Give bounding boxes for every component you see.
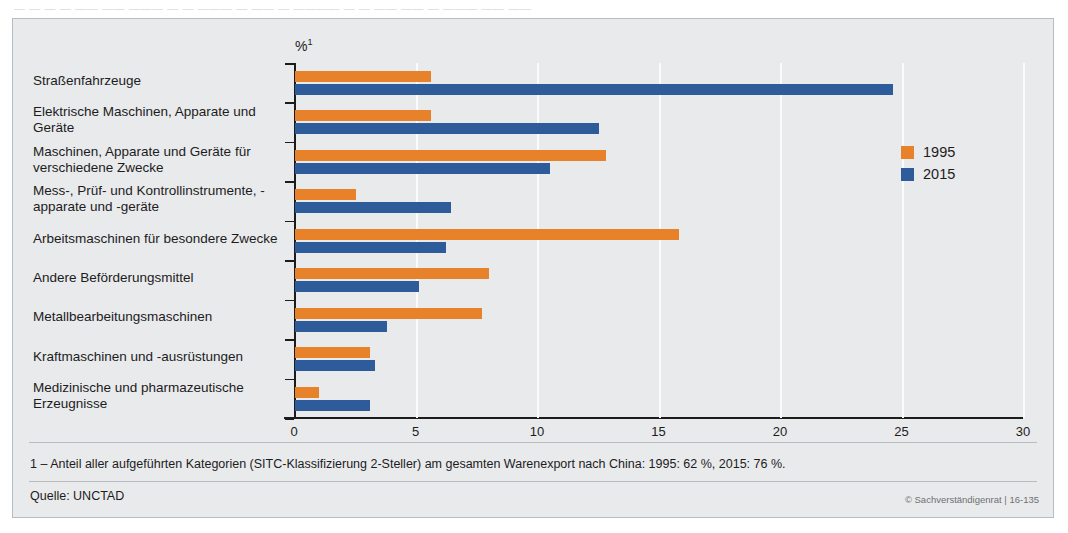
page-bleed-through-text: — — — — —— —— ——— — — ——— — —— — ———— — … (14, 2, 1068, 14)
x-gridline (659, 63, 661, 418)
figure-page: — — — — —— —— ——— — — ——— — —— — ———— — … (0, 0, 1068, 533)
x-tick-label: 30 (1016, 424, 1030, 439)
x-axis-line (284, 417, 1023, 419)
legend-swatch-icon (901, 146, 914, 159)
chart-legend: 19952015 (901, 141, 955, 185)
legend-label: 2015 (923, 166, 955, 182)
category-tick (285, 379, 294, 381)
category-tick (285, 300, 294, 302)
x-tick-label: 25 (894, 424, 908, 439)
x-axis-unit-text: % (295, 38, 307, 54)
bar-2015-3 (295, 163, 550, 174)
category-tick (285, 142, 294, 144)
bar-1995-1 (295, 71, 431, 82)
legend-swatch-icon (901, 168, 914, 181)
bar-2015-6 (295, 281, 419, 292)
bar-2015-2 (295, 123, 599, 134)
x-tick-label: 20 (773, 424, 787, 439)
bar-2015-5 (295, 242, 446, 253)
bar-1995-7 (295, 308, 482, 319)
category-tick (285, 418, 294, 420)
x-gridline (537, 63, 539, 418)
category-tick (285, 221, 294, 223)
category-tick (285, 63, 294, 65)
category-label: Metallbearbeitungsmaschinen (33, 309, 291, 325)
plot-grid (294, 63, 1023, 418)
category-label: Kraftmaschinen und -ausrüstungen (33, 349, 291, 365)
footer-divider-bottom (29, 481, 1037, 482)
legend-item-2015: 2015 (901, 163, 955, 185)
chart-figure: %1 StraßenfahrzeugeElektrische Maschinen… (12, 18, 1054, 518)
category-label: Elektrische Maschinen, Apparate und Gerä… (33, 104, 291, 136)
x-gridline (902, 63, 904, 418)
copyright-text: © Sachverständigenrat | 16-135 (905, 494, 1039, 505)
bar-2015-4 (295, 202, 451, 213)
category-label: Straßenfahrzeuge (33, 73, 291, 89)
category-label: Andere Beförderungsmittel (33, 270, 291, 286)
x-tick-label: 0 (290, 424, 297, 439)
legend-item-1995: 1995 (901, 141, 955, 163)
plot-area: %1 StraßenfahrzeugeElektrische Maschinen… (13, 19, 1053, 441)
bar-1995-9 (295, 387, 319, 398)
category-label: Arbeitsmaschinen für besondere Zwecke (33, 231, 291, 247)
source-text: Quelle: UNCTAD (30, 489, 124, 503)
legend-label: 1995 (923, 144, 955, 160)
bar-2015-7 (295, 321, 387, 332)
x-gridline (1023, 63, 1025, 418)
bar-2015-1 (295, 84, 893, 95)
x-axis-footnote-marker: 1 (307, 37, 312, 47)
category-label: Maschinen, Apparate und Geräte für versc… (33, 144, 291, 176)
x-tick-label: 5 (412, 424, 419, 439)
x-gridline (780, 63, 782, 418)
category-label: Mess-, Prüf- und Kontrollinstrumente, -a… (33, 183, 291, 215)
bar-1995-2 (295, 110, 431, 121)
category-tick (285, 339, 294, 341)
x-tick-label: 15 (651, 424, 665, 439)
bar-1995-4 (295, 189, 356, 200)
category-tick (285, 102, 294, 104)
footer-divider-top (29, 442, 1037, 443)
bar-1995-5 (295, 229, 679, 240)
category-tick (285, 260, 294, 262)
category-tick (285, 181, 294, 183)
bar-1995-6 (295, 268, 489, 279)
footnote-text: 1 – Anteil aller aufgeführten Kategorien… (30, 457, 786, 471)
bar-1995-8 (295, 347, 370, 358)
x-axis-unit-label: %1 (295, 37, 312, 54)
bar-1995-3 (295, 150, 606, 161)
x-tick-label: 10 (530, 424, 544, 439)
category-label: Medizinische und pharmazeutische Erzeugn… (33, 380, 291, 412)
bar-2015-9 (295, 400, 370, 411)
bar-2015-8 (295, 360, 375, 371)
